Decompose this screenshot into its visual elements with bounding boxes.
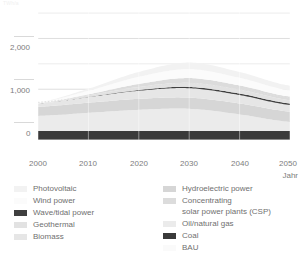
legend-item-label: Hydroelectric power	[182, 183, 253, 194]
legend-item[interactable]: Wind power	[14, 195, 154, 206]
legend-swatch-icon	[14, 210, 27, 216]
legend-item-label: Wind power	[33, 195, 75, 206]
legend-item[interactable]: Wave/tidal power	[14, 207, 154, 218]
legend-item-label: Oil/natural gas	[182, 218, 234, 229]
y-tick-label-1000: 1,000	[10, 86, 30, 95]
x-tick-label-2050: 2050	[279, 159, 297, 168]
legend-item-label: Photovoltaic	[33, 183, 77, 194]
legend-item[interactable]: Coal	[163, 230, 308, 241]
legend-swatch-icon	[163, 233, 176, 239]
legend-item[interactable]: Photovoltaic	[14, 183, 154, 194]
chart-figure: TWh/a 2,000 1,000 0 2000 2010 2020 2030 …	[0, 0, 308, 265]
legend-item-label: Geothermal	[33, 219, 75, 230]
legend-column-left: PhotovoltaicWind powerWave/tidal powerGe…	[14, 183, 154, 243]
chart-canvas	[38, 8, 290, 140]
legend-item[interactable]: BAU	[163, 242, 308, 253]
x-tick-label-2040: 2040	[231, 159, 249, 168]
y-minor-tick-2500	[14, 36, 34, 37]
legend-column-right: Hydroelectric powerConcentrating solar p…	[163, 183, 308, 254]
legend-swatch-icon	[14, 234, 27, 240]
legend-swatch-icon	[14, 222, 27, 228]
x-axis-ticks: 2000 2010 2020 2030 2040 2050	[0, 159, 308, 173]
legend-swatch-icon	[163, 186, 176, 192]
legend-item-label: Biomass	[33, 231, 64, 242]
legend-item-label: BAU	[182, 242, 198, 253]
legend-item[interactable]: Oil/natural gas	[163, 218, 308, 229]
legend-item-label: Coal	[182, 230, 198, 241]
y-tick-label-2000: 2,000	[10, 43, 30, 52]
area-band	[38, 131, 290, 140]
x-tick-label-2030: 2030	[180, 159, 198, 168]
area-series-group	[38, 63, 290, 140]
legend-swatch-icon	[163, 245, 176, 251]
stacked-area-svg	[38, 8, 290, 140]
legend-swatch-icon	[14, 198, 27, 204]
plot-area: 2,000 1,000 0 2000 2010 2020 2030 2040 2…	[0, 8, 308, 148]
y-axis-unit-label: TWh/a	[3, 0, 19, 6]
legend-item[interactable]: Hydroelectric power	[163, 183, 308, 194]
legend-swatch-icon	[14, 186, 27, 192]
legend-swatch-icon	[163, 198, 176, 204]
y-tick-label-0: 0	[26, 129, 30, 138]
y-minor-tick-1500	[14, 79, 34, 80]
legend-item-label: Wave/tidal power	[33, 207, 94, 218]
legend-item-label: Concentrating solar power plants (CSP)	[182, 195, 271, 217]
x-axis-title: Jahr	[282, 171, 298, 180]
x-tick-label-2020: 2020	[130, 159, 148, 168]
chart-legend: PhotovoltaicWind powerWave/tidal powerGe…	[0, 183, 308, 265]
y-minor-tick-500	[14, 122, 34, 123]
legend-item[interactable]: Geothermal	[14, 219, 154, 230]
x-tick-label-2010: 2010	[79, 159, 97, 168]
legend-item[interactable]: Concentrating solar power plants (CSP)	[163, 195, 308, 217]
legend-item[interactable]: Biomass	[14, 231, 154, 242]
x-tick-label-2000: 2000	[29, 159, 47, 168]
legend-swatch-icon	[163, 221, 176, 227]
